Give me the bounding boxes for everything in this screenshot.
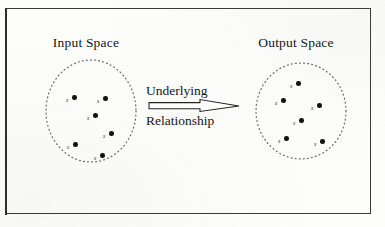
right-arrow-outline-icon — [148, 99, 244, 113]
input-point-dot — [109, 131, 114, 136]
output-point-dot — [299, 118, 304, 123]
output-point-label: x — [278, 139, 280, 144]
input-point-dot — [100, 153, 105, 158]
output-space-title: Output Space — [246, 35, 346, 51]
underlying-relationship-block: Underlying Relationship — [146, 84, 244, 128]
input-point-dot — [103, 96, 108, 101]
input-point-label: x — [66, 98, 68, 103]
input-point-label: x — [103, 134, 105, 139]
input-point-label: x — [67, 145, 69, 150]
input-space-title: Input Space — [40, 35, 132, 51]
output-point-label: x — [314, 142, 316, 147]
relation-word-bottom: Relationship — [146, 114, 244, 128]
output-point-label: x — [290, 84, 292, 89]
figure-canvas: Input Space x x x x x x Underlying Relat… — [0, 0, 385, 227]
output-point-dot — [320, 139, 325, 144]
input-point-label: x — [87, 116, 89, 121]
output-point-dot — [281, 98, 286, 103]
output-point-dot — [284, 136, 289, 141]
output-point-label: x — [311, 106, 313, 111]
input-point-dot — [73, 142, 78, 147]
input-point-label: x — [97, 99, 99, 104]
output-point-dot — [296, 81, 301, 86]
input-point-dot — [93, 113, 98, 118]
input-point-dot — [72, 95, 77, 100]
input-point-label: x — [94, 156, 96, 161]
output-space-boundary-ellipse — [255, 62, 349, 162]
output-point-label: x — [275, 101, 277, 106]
output-point-label: x — [293, 121, 295, 126]
output-point-dot — [317, 103, 322, 108]
input-space-boundary-ellipse — [43, 58, 139, 164]
relation-word-top: Underlying — [146, 84, 244, 98]
